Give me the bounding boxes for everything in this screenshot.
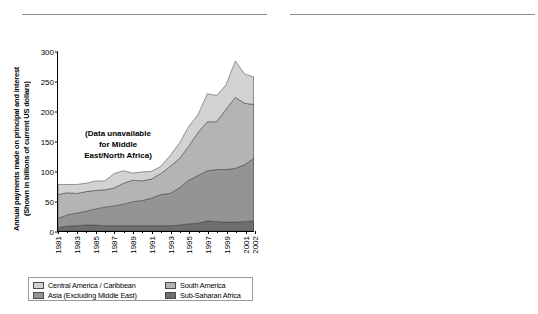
legend-swatch-subsaharan-africa xyxy=(165,292,176,299)
y-tick-label: 200 xyxy=(41,108,54,117)
y-tick-mark xyxy=(55,142,58,143)
y-tick-label: 250 xyxy=(41,78,54,87)
legend-item: Asia (Excluding Middle East) xyxy=(33,291,165,300)
x-tick-label: 1993 xyxy=(166,236,175,254)
x-tick-label: 1981 xyxy=(54,236,63,254)
legend-label-central-america: Central America / Caribbean xyxy=(48,281,136,290)
x-tick-label: 1991 xyxy=(147,236,156,254)
x-tick-label: 1997 xyxy=(204,236,213,254)
y-tick-label: 300 xyxy=(41,48,54,57)
legend-swatch-asia xyxy=(33,292,44,299)
x-tick-mark xyxy=(86,231,87,233)
legend-swatch-south-america xyxy=(165,282,176,289)
x-tick-mark-major xyxy=(246,231,247,234)
x-tick-mark-major xyxy=(96,231,97,234)
x-tick-mark-major xyxy=(114,231,115,234)
left-legend: Central America / Caribbean South Americ… xyxy=(28,277,253,301)
x-tick-mark-major xyxy=(58,231,59,234)
x-tick-label: 1983 xyxy=(72,236,81,254)
x-tick-mark xyxy=(236,231,237,233)
legend-row: Central America / Caribbean South Americ… xyxy=(33,280,248,290)
x-tick-label: 2001 xyxy=(241,236,250,254)
y-tick-mark xyxy=(55,202,58,203)
x-tick-mark xyxy=(142,231,143,233)
x-tick-mark xyxy=(105,231,106,233)
x-tick-mark-major xyxy=(208,231,209,234)
x-tick-label: 1987 xyxy=(110,236,119,254)
left-y-axis-title: Annual payments made on principal and in… xyxy=(12,46,31,251)
legend-item: South America xyxy=(165,281,226,290)
x-tick-mark-major xyxy=(133,231,134,234)
x-tick-mark xyxy=(67,231,68,233)
x-tick-mark-major xyxy=(255,231,256,234)
x-tick-mark xyxy=(180,231,181,233)
legend-swatch-central-america xyxy=(33,282,44,289)
y-tick-mark xyxy=(55,82,58,83)
legend-row: Asia (Excluding Middle East) Sub-Saharan… xyxy=(33,290,248,300)
left-data-unavailable-note: (Data unavailable for Middle East/North … xyxy=(62,128,174,161)
y-tick-mark xyxy=(55,112,58,113)
legend-label-south-america: South America xyxy=(180,281,226,290)
legend-item: Sub-Saharan Africa xyxy=(165,291,241,300)
x-tick-mark-major xyxy=(227,231,228,234)
y-tick-mark xyxy=(55,52,58,53)
left-chart-panel: Annual payments made on principal and in… xyxy=(0,0,268,314)
x-tick-mark-major xyxy=(152,231,153,234)
x-tick-label: 1999 xyxy=(222,236,231,254)
right-chart-panel: Trillion US$ (2001 Dollars) 00.51.01.52.… xyxy=(268,0,538,314)
legend-label-subsaharan-africa: Sub-Saharan Africa xyxy=(180,291,241,300)
figure-root: Annual payments made on principal and in… xyxy=(0,0,538,314)
x-tick-mark-major xyxy=(189,231,190,234)
x-tick-mark xyxy=(161,231,162,233)
y-tick-mark xyxy=(55,172,58,173)
x-tick-mark-major xyxy=(171,231,172,234)
x-tick-label: 1985 xyxy=(91,236,100,254)
x-tick-mark xyxy=(199,231,200,233)
y-tick-label: 50 xyxy=(45,198,54,207)
x-tick-mark xyxy=(217,231,218,233)
legend-item: Central America / Caribbean xyxy=(33,281,165,290)
x-tick-label: 1989 xyxy=(129,236,138,254)
x-tick-mark xyxy=(124,231,125,233)
x-tick-label: 2002 xyxy=(251,236,260,254)
x-tick-label: 1995 xyxy=(185,236,194,254)
x-tick-mark-major xyxy=(77,231,78,234)
y-tick-label: 150 xyxy=(41,138,54,147)
legend-label-asia: Asia (Excluding Middle East) xyxy=(48,291,137,300)
y-tick-label: 100 xyxy=(41,168,54,177)
